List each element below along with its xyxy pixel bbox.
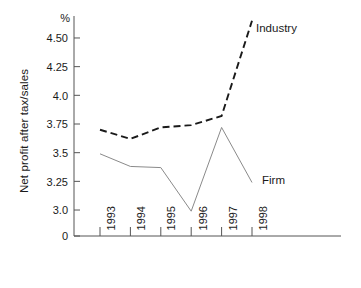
series-line-firm <box>100 127 252 211</box>
chart-container: Net profit after tax/sales % 4.50 4.25 4… <box>0 0 361 288</box>
axis-lines <box>74 16 341 236</box>
y-tick-marks <box>74 38 80 236</box>
x-tick-marks <box>100 227 252 236</box>
plot-area <box>0 0 361 288</box>
series-line-industry <box>100 21 252 139</box>
